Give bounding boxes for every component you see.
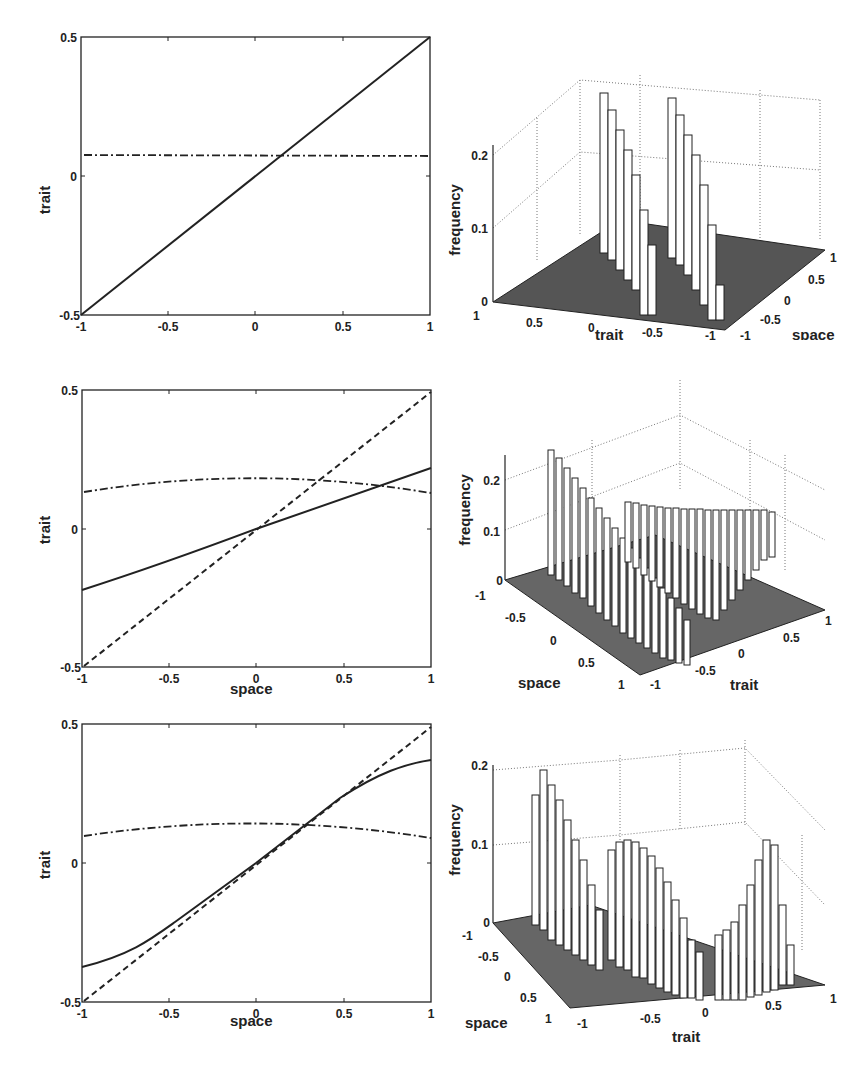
series-dashed — [84, 727, 431, 1001]
space-tick: -0.5 — [478, 950, 499, 964]
space-axis-label: space — [518, 674, 561, 690]
space-axis-label: space — [792, 326, 835, 340]
series-solid — [82, 760, 431, 967]
trait-tick: 0.5 — [526, 316, 543, 330]
xtick: 0.5 — [336, 672, 353, 686]
space-tick: -0.5 — [760, 313, 781, 327]
trait-axis-label: trait — [595, 326, 623, 340]
ytick: 0.5 — [61, 384, 78, 398]
ztick: 0 — [496, 574, 503, 588]
trait-axis-label: trait — [730, 676, 758, 690]
ztick: 0.2 — [483, 474, 500, 488]
xtick: -0.5 — [158, 320, 179, 334]
xtick: -1 — [77, 672, 88, 686]
trait-tick: 0 — [702, 1006, 709, 1020]
ztick: 0 — [483, 916, 490, 930]
space-axis-label: space — [465, 1014, 508, 1031]
xtick: 1 — [427, 320, 434, 334]
bar3d-chart-bottom-right: 0.2 0.1 0 -1 -0.5 0 0.5 1 -1 -0.5 0 0.5 … — [440, 690, 867, 1070]
ztick: 0.1 — [471, 222, 488, 236]
xtick: -0.5 — [159, 1007, 180, 1021]
bar3d-chart-middle-right: 0.2 0.1 0 -1 -0.5 0 0.5 1 -1 -0.5 0 0.5 … — [440, 340, 867, 690]
trait-tick: -0.5 — [695, 664, 716, 678]
ytick: 0 — [70, 170, 77, 184]
space-tick: -0.5 — [505, 611, 526, 625]
xtick: -1 — [76, 320, 87, 334]
xtick: 1 — [428, 672, 435, 686]
z-axis-label: frequency — [456, 474, 473, 546]
xtick: 0.5 — [335, 320, 352, 334]
trait-tick: 1 — [473, 309, 480, 323]
series-dash-dot — [84, 155, 430, 156]
space-tick: 0.5 — [808, 273, 825, 287]
ztick: 0.1 — [471, 838, 488, 852]
ytick: 0.5 — [60, 31, 77, 45]
bar3d-chart-top-right: 0.2 0.1 0 1 0.5 0 -0.5 -1 1 0.5 0 -0.5 -… — [440, 0, 867, 340]
y-axis-label: trait — [36, 516, 53, 544]
space-tick: -1 — [740, 329, 751, 340]
space-tick: 1 — [545, 1012, 552, 1026]
xtick: -1 — [77, 1007, 88, 1021]
trait-tick: -1 — [705, 329, 716, 340]
ridge-right — [715, 840, 794, 1000]
x-axis-label: space — [230, 1012, 273, 1029]
y-axis-label: trait — [36, 186, 53, 214]
xtick: 0.5 — [336, 1007, 353, 1021]
space-tick: 0.5 — [520, 991, 537, 1005]
z-axis-label: frequency — [446, 804, 463, 876]
xtick: 0 — [252, 320, 259, 334]
y-axis-label: trait — [36, 851, 53, 879]
trait-tick: 1 — [830, 992, 837, 1006]
trait-tick: 0 — [588, 321, 595, 335]
trait-tick: 0.5 — [765, 999, 782, 1013]
line-chart-top-left: 0.5 0 -0.5 -1 -0.5 0 0.5 1 trait — [0, 0, 440, 340]
ztick: 0.1 — [483, 525, 500, 539]
space-tick: -1 — [475, 589, 486, 603]
series-dash-dot — [84, 478, 431, 493]
ztick: 0.2 — [471, 759, 488, 773]
trait-tick: -1 — [577, 1017, 588, 1031]
trait-tick: 1 — [825, 614, 832, 628]
line-chart-bottom-left: 0.5 0 -0.5 -1 -0.5 0 0.5 1 trait — [0, 690, 440, 1030]
space-tick: 1 — [830, 251, 837, 265]
space-tick: -1 — [462, 929, 473, 943]
trait-axis-label: trait — [672, 1028, 700, 1045]
trait-tick: 0.5 — [783, 631, 800, 645]
ztick: 0 — [481, 295, 488, 309]
series-dash-dot — [84, 823, 431, 838]
space-tick: 0 — [504, 970, 511, 984]
space-tick: 0 — [550, 634, 557, 648]
ztick: 0.2 — [471, 149, 488, 163]
space-tick: 0 — [784, 294, 791, 308]
ytick: 0.5 — [61, 718, 78, 732]
trait-tick: -0.5 — [640, 1012, 661, 1026]
line-chart-middle-left: 0.5 0 -0.5 -1 -0.5 0 0.5 1 trait — [0, 340, 440, 690]
ytick: 0 — [71, 523, 78, 537]
xtick: -0.5 — [159, 672, 180, 686]
z-axis-label: frequency — [446, 184, 463, 256]
space-tick: 1 — [618, 678, 625, 690]
trait-tick: 0 — [738, 647, 745, 661]
xtick: 1 — [428, 1007, 435, 1021]
trait-tick: -0.5 — [642, 326, 663, 340]
series-dashed — [84, 392, 431, 666]
trait-tick: -1 — [650, 678, 661, 690]
space-tick: 0.5 — [578, 656, 595, 670]
ytick: 0 — [71, 857, 78, 871]
series-solid — [81, 37, 430, 315]
